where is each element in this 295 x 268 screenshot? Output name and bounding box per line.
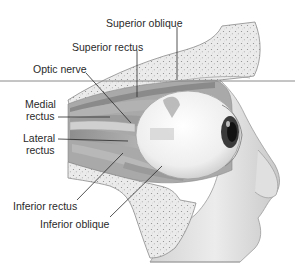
label-superior-rectus: Superior rectus (72, 41, 143, 53)
label-medial-rectus-line2: rectus (26, 110, 55, 122)
label-medial-rectus-line1: Medial (25, 98, 56, 110)
label-lateral-rectus-line2: rectus (26, 144, 55, 156)
label-inferior-rectus: Inferior rectus (13, 200, 77, 212)
label-inferior-oblique: Inferior oblique (40, 218, 109, 230)
eyeball (136, 91, 240, 179)
label-optic-nerve: Optic nerve (33, 63, 87, 75)
label-superior-oblique: Superior oblique (106, 17, 182, 29)
label-lateral-rectus-line1: Lateral (23, 132, 55, 144)
